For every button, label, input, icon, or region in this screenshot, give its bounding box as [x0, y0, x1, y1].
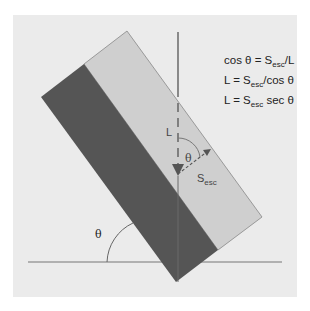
- tilt-angle-arc: [107, 223, 133, 262]
- equation-l-sec: L = Sesc sec θ: [224, 94, 294, 109]
- label-tilt-theta: θ: [95, 228, 102, 241]
- slab-diagram: [0, 0, 310, 311]
- equation-l-over-cos: L = Sesc/cos θ: [224, 74, 294, 89]
- label-s-esc: Sesc: [197, 172, 217, 187]
- label-L: L: [166, 126, 172, 138]
- label-inner-theta: θ: [185, 152, 192, 165]
- equation-cos: cos θ = Sesc/L: [224, 54, 294, 69]
